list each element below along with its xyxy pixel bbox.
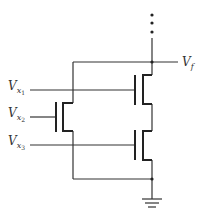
- transistor-x1: [135, 75, 152, 105]
- junction-dot: [150, 60, 153, 63]
- continuation-dot: [150, 21, 153, 24]
- transistor-x3: [135, 130, 152, 160]
- ground-icon: [142, 199, 162, 207]
- junction-dot: [150, 177, 153, 180]
- transistor-x2: [56, 102, 73, 132]
- circuit-diagram: Vf Vx1 Vx2 Vx3: [0, 0, 211, 222]
- input3-label: Vx3: [8, 134, 25, 151]
- input2-label: Vx2: [8, 106, 25, 123]
- continuation-dot: [150, 13, 153, 16]
- output-label: Vf: [182, 55, 196, 71]
- continuation-dot: [150, 30, 153, 33]
- input1-label: Vx1: [8, 79, 25, 96]
